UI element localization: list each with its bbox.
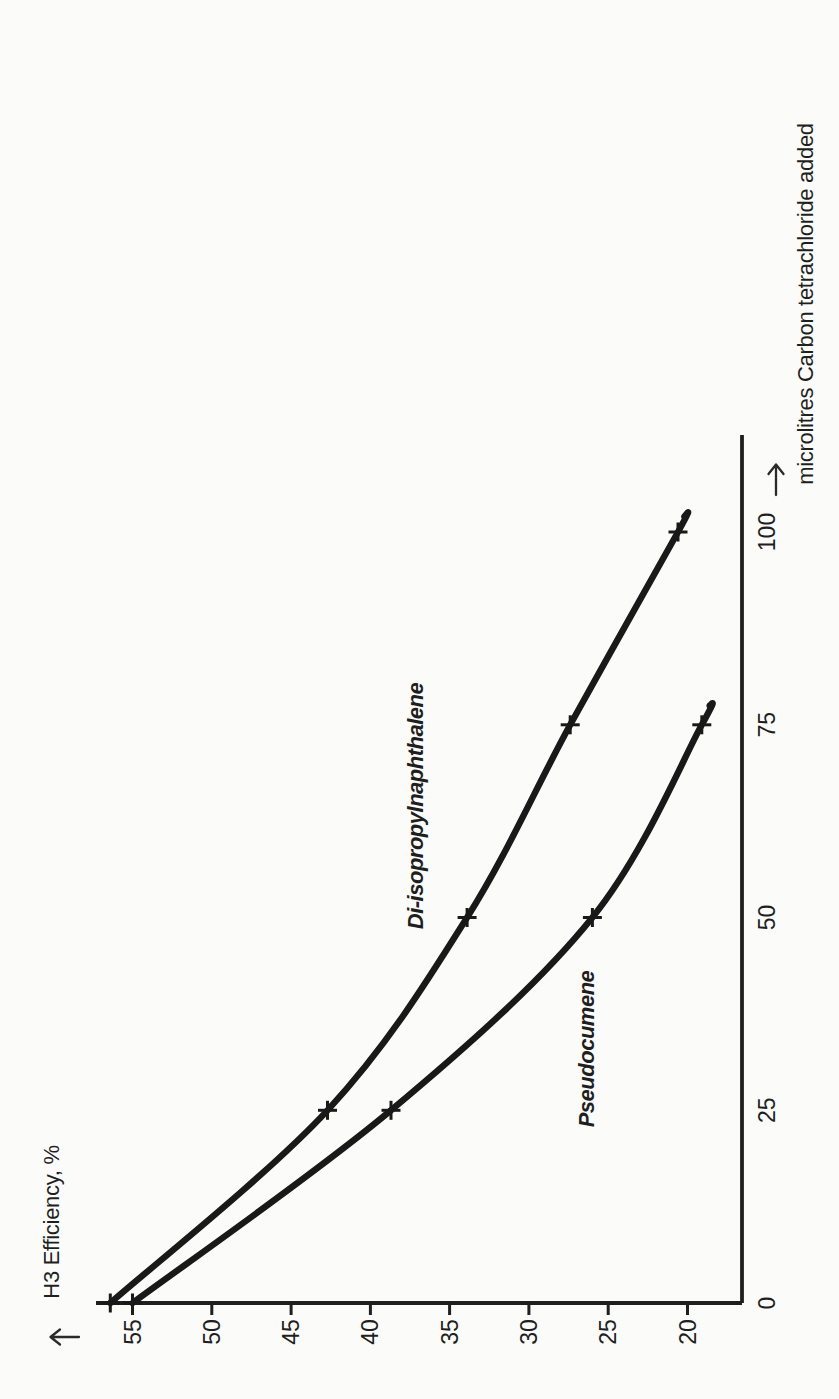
scanned-page: { "figure": { "background_color": "#fbfb… (0, 0, 839, 1399)
efficiency-axis-arrow-icon (44, 1325, 82, 1349)
series-label-di-isopropylnaphthalene: Di-isopropylnaphthalene (403, 683, 429, 929)
microlitres-tick-labels: 0255075100 (754, 513, 780, 1310)
microlitres-tick-label: 75 (754, 712, 780, 738)
efficiency-tick-label: 30 (516, 1319, 542, 1345)
microlitres-tick-label: 0 (754, 1297, 780, 1310)
efficiency-tick-label: 40 (357, 1319, 383, 1345)
microlitres-tick-label: 50 (754, 905, 780, 931)
efficiency-ticks: 5550454035302520 (120, 1303, 701, 1345)
efficiency-tick-label: 50 (199, 1319, 225, 1345)
microlitres-tick-label: 25 (754, 1098, 780, 1124)
microlitres-axis-arrow-icon (763, 458, 789, 498)
efficiency-tick-label: 55 (120, 1319, 146, 1345)
efficiency-tick-label: 35 (437, 1319, 463, 1345)
efficiency-tick-label: 25 (595, 1319, 621, 1345)
microlitres-tick-label: 100 (754, 513, 780, 551)
efficiency-tick-label: 20 (675, 1319, 701, 1345)
series-label-pseudocumene: Pseudocumene (574, 971, 600, 1128)
x-axis-title: microlitres Carbon tetrachloride added (793, 123, 819, 485)
y-axis-title: H3 Efficiency, % (39, 1145, 65, 1298)
efficiency-tick-label: 45 (278, 1319, 304, 1345)
